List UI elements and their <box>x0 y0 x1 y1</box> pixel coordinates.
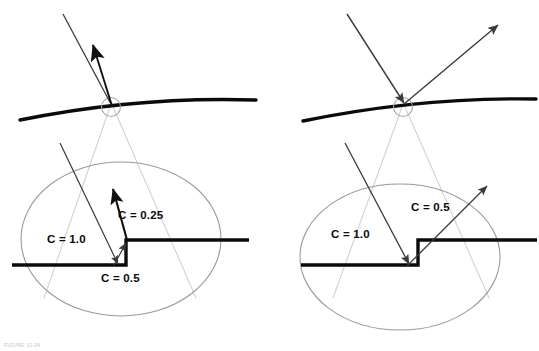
outgoing-ray-top <box>404 25 498 104</box>
label-c-1-0: C = 1.0 <box>331 228 370 240</box>
surface-curve <box>303 99 536 121</box>
region-ellipse <box>300 184 500 330</box>
left-panel: C = 1.0 C = 0.25 C = 0.5 <box>12 14 256 316</box>
label-c-0-25: C = 0.25 <box>118 209 164 221</box>
outgoing-arrow-c05 <box>407 186 487 266</box>
step-profile <box>301 240 537 265</box>
label-c-0-5: C = 0.5 <box>101 272 140 284</box>
figure-caption: FIGURE 11-24 <box>4 342 40 348</box>
left-cone-lines <box>44 107 196 298</box>
incoming-ray-top <box>63 14 112 106</box>
cone-line-left <box>333 107 402 298</box>
incoming-ray-lower <box>60 143 118 264</box>
incoming-ray-lower <box>345 143 409 264</box>
label-c-0-5: C = 0.5 <box>411 201 450 213</box>
figure-diagram: C = 1.0 C = 0.25 C = 0.5 <box>0 0 539 351</box>
incoming-ray-top <box>347 14 404 103</box>
surface-curve <box>20 99 256 120</box>
label-c-1-0: C = 1.0 <box>47 233 86 245</box>
figure-root: C = 1.0 C = 0.25 C = 0.5 <box>0 0 539 351</box>
right-panel: C = 1.0 C = 0.5 <box>300 14 537 330</box>
cone-line-left <box>44 107 110 298</box>
cone-line-right <box>113 107 196 298</box>
bounce-arrow-c05 <box>114 243 126 265</box>
